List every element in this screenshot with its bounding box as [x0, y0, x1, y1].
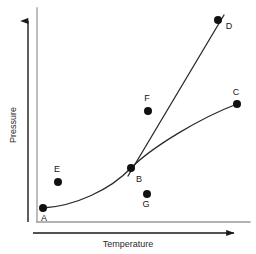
- data-point-label-d: D: [226, 21, 233, 31]
- plot-frame: [37, 8, 250, 222]
- data-point-label-e: E: [54, 164, 60, 174]
- data-point-c: [233, 100, 241, 108]
- data-point-label-f: F: [144, 93, 150, 103]
- upper-boundary-curve: [128, 15, 224, 176]
- data-point-e: [54, 178, 62, 186]
- data-point-label-b: B: [136, 174, 142, 184]
- y-axis-title: Pressure: [8, 107, 18, 143]
- phase-diagram-canvas: ABCDEFG Temperature Pressure: [0, 0, 256, 254]
- data-point-f: [144, 107, 152, 115]
- data-point-label-a: A: [41, 213, 47, 223]
- data-point-group: ABCDEFG: [39, 16, 241, 223]
- data-point-label-g: G: [142, 199, 149, 209]
- data-point-d: [214, 16, 222, 24]
- data-point-label-c: C: [233, 87, 240, 97]
- axis-arrows: [28, 21, 234, 233]
- data-point-g: [143, 190, 151, 198]
- data-point-b: [127, 164, 135, 172]
- data-point-a: [39, 204, 47, 212]
- phase-diagram-figure: ABCDEFG Temperature Pressure: [0, 0, 256, 254]
- x-axis-title: Temperature: [103, 239, 154, 249]
